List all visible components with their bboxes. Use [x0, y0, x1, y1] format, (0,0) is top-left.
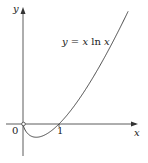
eq-equals: =: [68, 36, 83, 47]
plot-canvas: y x 0 1 y = x ln x: [0, 0, 148, 163]
open-circle-origin: [22, 122, 26, 126]
function-graph: y x 0 1 y = x ln x: [0, 0, 148, 163]
x-axis-arrow-icon: [131, 122, 138, 127]
y-axis-label: y: [12, 3, 19, 14]
function-label: y = x ln x: [61, 36, 110, 47]
x-axis-label: x: [134, 127, 140, 138]
eq-ln: ln: [88, 36, 104, 47]
eq-x2: x: [104, 36, 110, 47]
tick-label-1: 1: [57, 125, 63, 136]
origin-label: 0: [12, 125, 18, 136]
y-axis-arrow-icon: [21, 7, 26, 14]
curve-x-ln-x: [23, 11, 128, 137]
